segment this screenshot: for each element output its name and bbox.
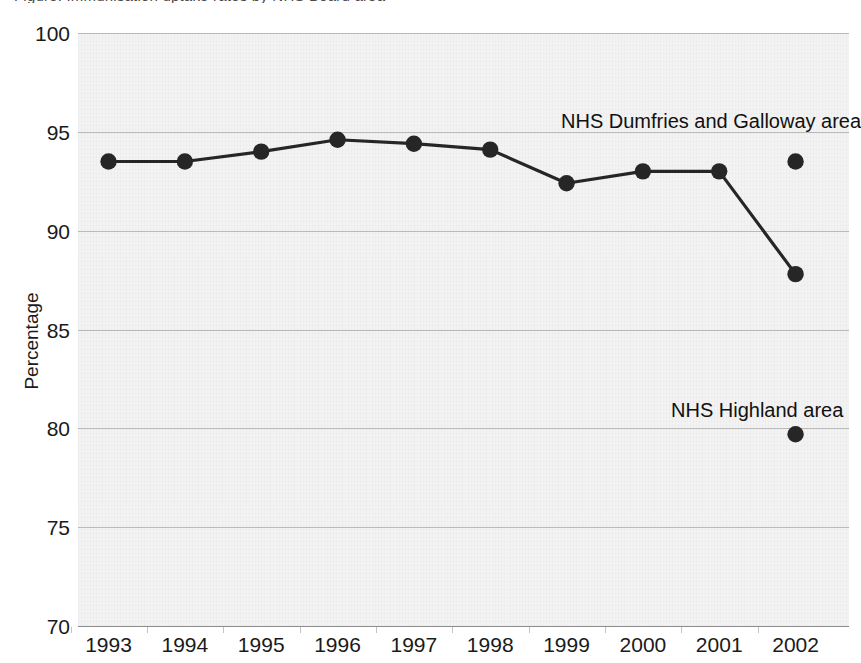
annotation-highland: NHS Highland area <box>671 400 843 420</box>
data-point-marker <box>253 143 269 159</box>
data-point-marker <box>406 135 422 151</box>
data-point-marker <box>787 153 803 169</box>
annotation-dumfries-galloway: NHS Dumfries and Galloway area <box>561 111 861 131</box>
data-point-marker <box>635 163 651 179</box>
data-point-marker <box>711 163 727 179</box>
data-point-marker <box>558 175 574 191</box>
data-point-marker <box>482 141 498 157</box>
data-point-marker <box>787 266 803 282</box>
data-point-marker <box>787 426 803 442</box>
series-line-0 <box>109 140 796 274</box>
data-point-marker <box>329 132 345 148</box>
data-point-marker <box>100 153 116 169</box>
data-point-marker <box>177 153 193 169</box>
